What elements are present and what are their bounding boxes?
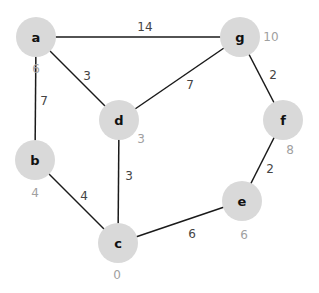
nodes-layer: a6g10d3f8b4e6c0 bbox=[15, 17, 303, 282]
node-c: c0 bbox=[98, 223, 138, 282]
node-distance-label: 10 bbox=[263, 30, 278, 44]
edge-weight-label: 2 bbox=[269, 68, 277, 82]
edge-weight-label: 7 bbox=[40, 94, 48, 108]
edge-weight-label: 3 bbox=[83, 69, 91, 83]
graph-diagram: 1437723426 a6g10d3f8b4e6c0 bbox=[0, 0, 319, 293]
node-label: c bbox=[114, 236, 122, 251]
edge-weight-label: 7 bbox=[186, 78, 194, 92]
node-b: b4 bbox=[15, 140, 55, 200]
edge-weight-label: 3 bbox=[125, 169, 133, 183]
edge-weight-label: 6 bbox=[188, 227, 196, 241]
node-label: b bbox=[30, 153, 39, 168]
node-distance-label: 6 bbox=[240, 228, 248, 242]
node-distance-label: 4 bbox=[31, 186, 39, 200]
node-label: e bbox=[238, 194, 247, 209]
edge-a-g: 14 bbox=[36, 20, 240, 37]
node-distance-label: 3 bbox=[137, 132, 145, 146]
edge-weight-label: 4 bbox=[80, 189, 88, 203]
node-label: g bbox=[235, 30, 244, 45]
node-distance-label: 8 bbox=[286, 143, 294, 157]
edge-weight-label: 14 bbox=[137, 20, 152, 34]
edge-line bbox=[119, 37, 240, 120]
edge-g-d: 7 bbox=[119, 37, 240, 120]
edge-weight-label: 2 bbox=[266, 162, 274, 176]
node-label: f bbox=[280, 113, 286, 128]
node-g: g10 bbox=[220, 17, 279, 57]
node-distance-label: 6 bbox=[32, 62, 40, 76]
node-a: a6 bbox=[16, 17, 56, 76]
node-distance-label: 0 bbox=[113, 268, 121, 282]
node-e: e6 bbox=[222, 181, 262, 242]
node-label: a bbox=[32, 30, 41, 45]
node-label: d bbox=[114, 113, 123, 128]
